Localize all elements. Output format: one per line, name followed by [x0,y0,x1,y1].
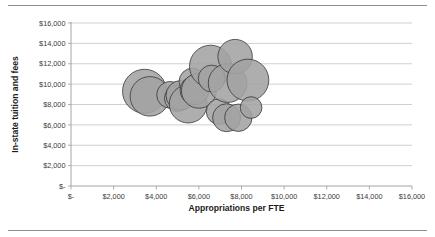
y-tick-label: $10,000 [39,80,65,89]
x-axis-ticks [71,186,412,190]
chart-canvas: $-$2,000$4,000$6,000$8,000$10,000$12,000… [0,0,435,237]
y-tick-label: $12,000 [39,59,65,68]
x-tick-label: $- [68,192,75,201]
x-axis-tick-labels: $-$2,000$4,000$6,000$8,000$10,000$12,000… [68,192,425,201]
y-tick-label: $2,000 [43,161,65,170]
figure: $-$2,000$4,000$6,000$8,000$10,000$12,000… [0,0,435,237]
y-tick-label: $14,000 [39,39,65,48]
x-tick-label: $6,000 [188,192,210,201]
x-tick-label: $14,000 [356,192,382,201]
y-tick-label: $4,000 [43,141,65,150]
bubble-point [240,97,262,119]
x-tick-label: $2,000 [102,192,124,201]
bubble-chart: $-$2,000$4,000$6,000$8,000$10,000$12,000… [0,0,435,237]
y-tick-label: $6,000 [43,121,65,130]
bubble-point [227,59,269,101]
x-tick-label: $10,000 [271,192,297,201]
bubble-series [123,39,269,131]
x-tick-label: $8,000 [230,192,252,201]
y-tick-label: $16,000 [39,19,65,28]
x-tick-label: $16,000 [399,192,425,201]
y-axis-title: In-state tuition and fees [10,56,20,153]
y-tick-label: $- [59,182,66,191]
x-tick-label: $12,000 [314,192,340,201]
y-axis-tick-labels: $-$2,000$4,000$6,000$8,000$10,000$12,000… [39,19,66,191]
x-axis-title: Appropriations per FTE [189,203,285,213]
x-tick-label: $4,000 [145,192,167,201]
y-tick-label: $8,000 [43,100,65,109]
